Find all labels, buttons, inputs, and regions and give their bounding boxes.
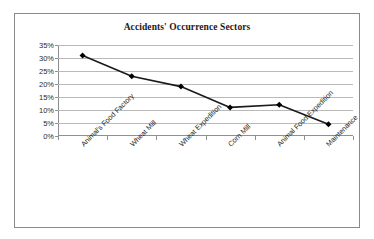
y-axis-tick-label: 10%	[39, 106, 54, 115]
data-point-marker	[80, 52, 86, 58]
data-point-marker	[178, 84, 184, 90]
y-axis-tick-label: 25%	[39, 67, 54, 76]
y-axis-tick-label: 15%	[39, 93, 54, 102]
x-axis-tick-mark	[353, 136, 354, 140]
y-axis-tick-label: 5%	[43, 119, 54, 128]
y-axis-tick-label: 0%	[43, 132, 54, 141]
chart-container: Accidents' Occurrence Sectors 0%5%10%15%…	[14, 13, 360, 228]
data-point-marker	[227, 104, 233, 110]
chart-title: Accidents' Occurrence Sectors	[15, 22, 359, 32]
x-axis-tick-mark	[107, 136, 108, 140]
data-point-marker	[325, 121, 331, 127]
y-axis-tick-label: 35%	[39, 41, 54, 50]
x-axis-tick-mark	[255, 136, 256, 140]
x-axis-tick-mark	[58, 136, 59, 140]
x-axis-tick-mark	[304, 136, 305, 140]
y-axis-tick-label: 30%	[39, 54, 54, 63]
x-axis-tick-mark	[206, 136, 207, 140]
data-point-marker	[276, 102, 282, 108]
y-axis-tick-label: 20%	[39, 80, 54, 89]
x-axis-tick-mark	[156, 136, 157, 140]
plot-wrapper: 0%5%10%15%20%25%30%35% Animal's Food Fac…	[58, 45, 353, 136]
data-point-marker	[129, 73, 135, 79]
